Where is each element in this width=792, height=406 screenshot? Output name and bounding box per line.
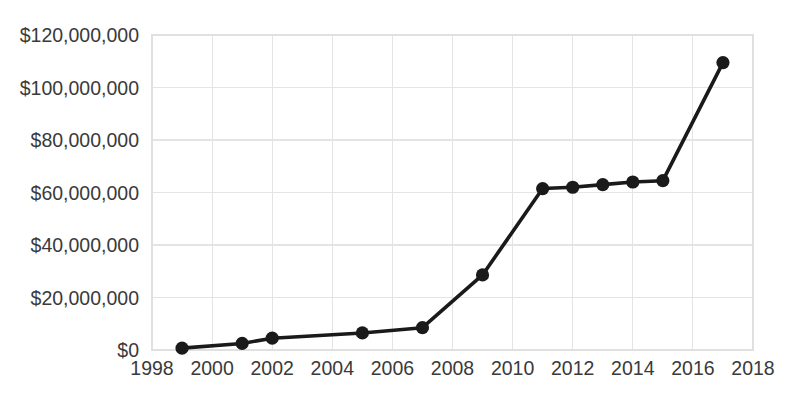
x-axis-tick-label: 2000 (190, 357, 234, 379)
data-point-marker (175, 342, 188, 355)
x-axis-tick-label: 2012 (551, 357, 594, 379)
data-point-marker (596, 178, 609, 191)
x-axis-tick-label: 2006 (371, 357, 414, 379)
y-axis-tick-label: $60,000,000 (31, 182, 140, 204)
data-point-marker (656, 174, 669, 187)
data-point-marker (356, 326, 369, 339)
x-axis-tick-label: 2002 (251, 357, 294, 379)
y-axis-tick-label: $120,000,000 (20, 24, 139, 46)
y-axis-tick-label: $100,000,000 (20, 77, 139, 99)
data-point-marker (536, 182, 549, 195)
x-axis-tick-label: 2008 (431, 357, 474, 379)
data-point-marker (236, 337, 249, 350)
chart-container: $0$20,000,000$40,000,000$60,000,000$80,0… (0, 0, 792, 406)
data-point-marker (566, 181, 579, 194)
data-point-marker (416, 321, 429, 334)
y-axis-tick-label: $20,000,000 (31, 287, 140, 309)
x-axis-tick-label: 2010 (491, 357, 535, 379)
data-point-marker (716, 56, 729, 69)
x-axis-tick-label: 2004 (311, 357, 355, 379)
x-axis-tick-label: 1998 (130, 357, 173, 379)
y-axis-tick-label: $80,000,000 (31, 129, 140, 151)
x-axis-tick-label: 2016 (671, 357, 714, 379)
line-chart: $0$20,000,000$40,000,000$60,000,000$80,0… (0, 0, 792, 406)
data-point-marker (626, 175, 639, 188)
x-axis-tick-label: 2014 (611, 357, 655, 379)
x-axis-tick-label: 2018 (731, 357, 774, 379)
y-axis-tick-label: $40,000,000 (31, 234, 140, 256)
x-axis-tick-labels: 1998200020022004200620082010201220142016… (130, 357, 774, 379)
data-point-marker (476, 268, 489, 281)
data-point-marker (266, 332, 279, 345)
